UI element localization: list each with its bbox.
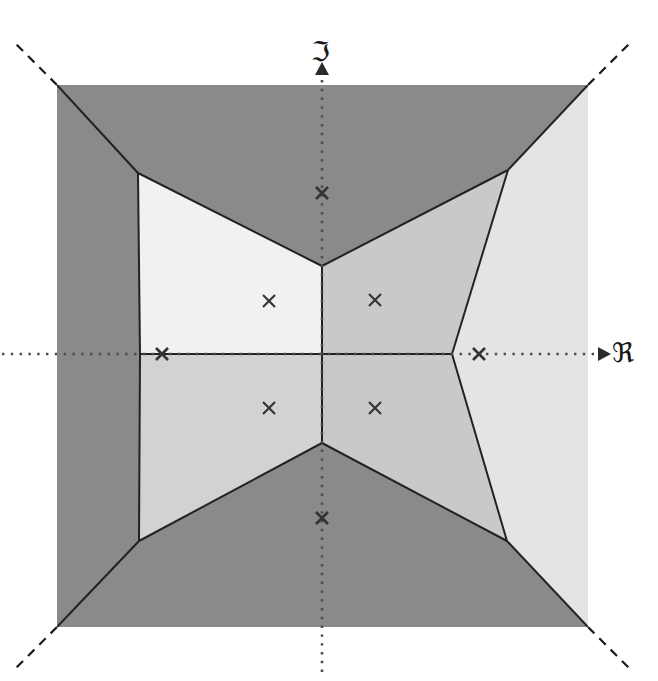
imaginary-axis-label: ℑ [311, 38, 330, 65]
diagonal-top-left-line [14, 42, 57, 85]
diagonal-top-right-line [588, 42, 631, 85]
diagonal-bottom-left-line [14, 627, 57, 670]
complex-plane-diagram [0, 0, 658, 681]
real-axis-label: ℜ [612, 339, 634, 366]
figure-canvas: ℑ ℜ [0, 0, 658, 681]
diagonal-bottom-right-line [588, 627, 631, 670]
boundary-ll-to-axis [139, 354, 140, 541]
real-axis-arrowhead [598, 347, 611, 361]
